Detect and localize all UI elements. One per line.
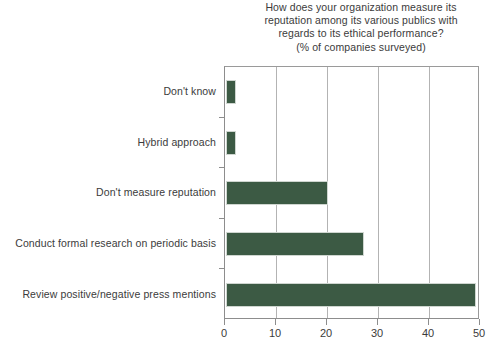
x-axis-label-10: 10	[269, 327, 281, 339]
bar-conduct-formal-research	[226, 232, 364, 256]
x-axis-tick-50	[479, 319, 480, 325]
chart-title-line-1: How does your organization measure its	[232, 1, 490, 14]
y-axis-label-3: Conduct formal research on periodic basi…	[0, 218, 216, 269]
x-axis-label-40: 40	[422, 327, 434, 339]
bar-row	[225, 118, 478, 169]
y-axis-label-4: Review positive/negative press mentions	[0, 268, 216, 319]
chart-title-line-2: reputation among its various publics wit…	[232, 14, 490, 27]
x-axis-tick-10	[275, 319, 276, 325]
bar-review-press-mentions	[226, 283, 476, 307]
y-axis-label-2: Don't measure reputation	[0, 167, 216, 218]
bar-dont-know	[226, 80, 236, 104]
bar-dont-measure-reputation	[226, 181, 328, 205]
chart-title-line-4: (% of companies surveyed)	[232, 41, 490, 54]
bar-chart: How does your organization measure its r…	[0, 0, 497, 352]
plot-area	[224, 66, 479, 319]
x-axis-tick-30	[377, 319, 378, 325]
x-axis-tick-20	[326, 319, 327, 325]
x-axis-tick-40	[428, 319, 429, 325]
y-axis-label-0: Don't know	[0, 66, 216, 117]
x-axis: 0 10 20 30 40 50	[224, 319, 480, 352]
chart-title-line-3: regards to its ethical performance?	[232, 27, 490, 40]
bar-series	[225, 67, 478, 318]
bar-row	[225, 269, 478, 320]
x-axis-label-0: 0	[221, 327, 227, 339]
bar-row	[225, 219, 478, 270]
bar-row	[225, 67, 478, 118]
bar-hybrid-approach	[226, 131, 236, 155]
x-axis-label-30: 30	[371, 327, 383, 339]
x-axis-label-50: 50	[473, 327, 485, 339]
y-axis-label-1: Hybrid approach	[0, 117, 216, 168]
x-axis-label-20: 20	[320, 327, 332, 339]
x-axis-tick-0	[224, 319, 225, 325]
chart-title: How does your organization measure its r…	[232, 1, 490, 54]
y-axis-labels: Don't know Hybrid approach Don't measure…	[0, 66, 216, 319]
bar-row	[225, 168, 478, 219]
